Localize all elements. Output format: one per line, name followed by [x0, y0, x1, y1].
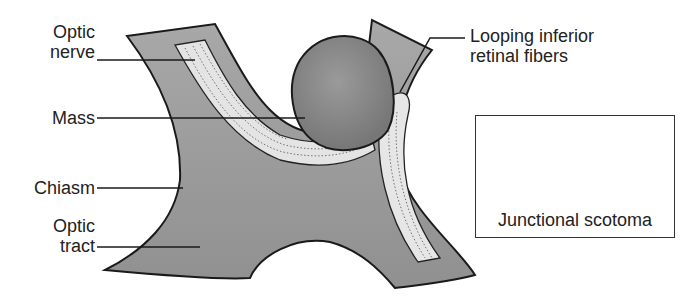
inset-caption: Junctional scotoma	[476, 210, 674, 231]
mass	[292, 36, 394, 150]
label-looping-fibers: Looping inferior retinal fibers	[470, 26, 594, 66]
label-looping-fibers-line1: Looping inferior	[470, 26, 594, 46]
diagram-stage: Optic nerve Mass Chiasm Optic tract Loop…	[0, 0, 691, 297]
label-optic-tract-line2: tract	[53, 236, 95, 256]
label-mass: Mass	[52, 108, 95, 128]
label-chiasm: Chiasm	[34, 178, 95, 198]
junctional-scotoma-inset: Junctional scotoma	[475, 115, 675, 238]
label-optic-nerve-line2: nerve	[50, 42, 95, 62]
label-optic-tract: Optic tract	[53, 216, 95, 256]
label-optic-nerve-line1: Optic	[50, 22, 95, 42]
label-looping-fibers-line2: retinal fibers	[470, 46, 594, 66]
label-optic-tract-line1: Optic	[53, 216, 95, 236]
label-optic-nerve: Optic nerve	[50, 22, 95, 62]
